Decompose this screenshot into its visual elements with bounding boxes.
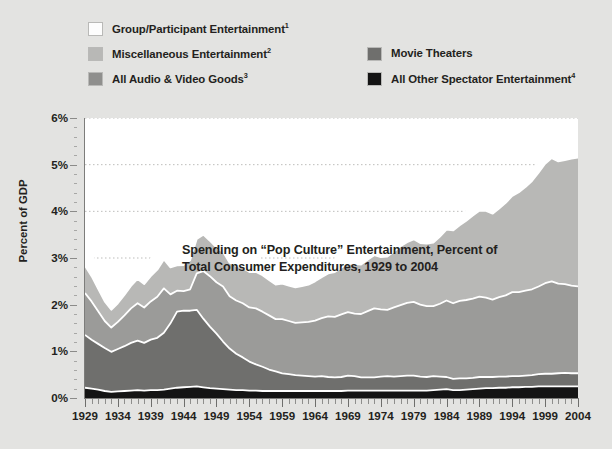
x-major-tick [315, 399, 316, 407]
x-minor-tick [262, 399, 263, 404]
x-tick-label-2004: 2004 [565, 409, 591, 422]
legend-swatch-icon [88, 72, 103, 86]
legend-item-0[interactable]: Movie Theaters [367, 41, 575, 66]
x-minor-tick [276, 399, 277, 404]
x-minor-tick [203, 399, 204, 404]
x-minor-tick [460, 399, 461, 404]
x-tick-label-1949: 1949 [204, 409, 230, 422]
x-minor-tick [499, 399, 500, 404]
y-tick-label-6%: 6% [51, 112, 68, 124]
x-minor-tick [210, 399, 211, 404]
x-minor-tick [394, 399, 395, 404]
x-minor-tick [519, 399, 520, 404]
x-major-tick [282, 399, 283, 407]
x-major-tick [545, 399, 546, 407]
y-minor-tick [74, 183, 77, 184]
chart-legend: Group/Participant Entertainment1Miscella… [88, 16, 598, 88]
plot-area: Spending on “Pop Culture” Entertainment,… [85, 118, 578, 398]
y-tick-mark [70, 351, 77, 352]
x-tick-label-1984: 1984 [434, 409, 460, 422]
x-minor-tick [170, 399, 171, 404]
legend-swatch-icon [88, 47, 103, 61]
y-tick-mark [70, 118, 77, 119]
y-minor-tick [74, 361, 77, 362]
legend-item-1[interactable]: All Other Spectator Entertainment4 [367, 66, 575, 91]
x-minor-tick [407, 399, 408, 404]
x-minor-tick [552, 399, 553, 404]
y-minor-tick [74, 389, 77, 390]
y-tick-mark [70, 258, 77, 259]
x-major-tick [512, 399, 513, 407]
x-tick-label-1989: 1989 [466, 409, 492, 422]
y-minor-tick [74, 202, 77, 203]
legend-column-left: Group/Participant Entertainment1Miscella… [88, 16, 289, 91]
y-minor-tick [74, 221, 77, 222]
x-minor-tick [111, 399, 112, 404]
y-tick-mark [70, 165, 77, 166]
y-minor-tick [74, 146, 77, 147]
x-minor-tick [387, 399, 388, 404]
x-minor-tick [558, 399, 559, 404]
x-minor-tick [427, 399, 428, 404]
y-tick-mark [70, 398, 77, 399]
x-minor-tick [230, 399, 231, 404]
legend-footnote-marker: 1 [285, 21, 289, 30]
x-major-tick [184, 399, 185, 407]
x-major-tick [151, 399, 152, 407]
x-minor-tick [177, 399, 178, 404]
x-major-tick [479, 399, 480, 407]
y-axis-title: Percent of GDP [17, 151, 29, 291]
x-minor-tick [440, 399, 441, 404]
y-axis: 0%1%2%3%4%5%6% [0, 108, 78, 408]
y-tick-label-4%: 4% [51, 205, 68, 217]
x-axis-ticks [85, 399, 580, 408]
y-minor-tick [74, 239, 77, 240]
x-minor-tick [374, 399, 375, 404]
y-minor-tick [74, 155, 77, 156]
y-minor-tick [74, 342, 77, 343]
legend-footnote-marker: 4 [571, 71, 575, 80]
x-tick-label-1939: 1939 [138, 409, 164, 422]
x-minor-tick [473, 399, 474, 404]
x-tick-label-1974: 1974 [368, 409, 394, 422]
y-tick-label-2%: 2% [51, 299, 68, 311]
y-minor-tick [74, 323, 77, 324]
x-minor-tick [164, 399, 165, 404]
x-minor-tick [525, 399, 526, 404]
x-major-tick [118, 399, 119, 407]
chart-root: Group/Participant Entertainment1Miscella… [0, 0, 612, 449]
x-minor-tick [236, 399, 237, 404]
x-tick-label-1954: 1954 [236, 409, 262, 422]
x-tick-label-1999: 1999 [532, 409, 558, 422]
y-tick-label-5%: 5% [51, 159, 68, 171]
x-minor-tick [355, 399, 356, 404]
x-major-tick [578, 399, 579, 407]
x-tick-label-1934: 1934 [105, 409, 131, 422]
x-minor-tick [335, 399, 336, 404]
x-major-tick [249, 399, 250, 407]
legend-item-2[interactable]: All Audio & Video Goods3 [88, 66, 289, 91]
x-minor-tick [157, 399, 158, 404]
legend-item-0[interactable]: Group/Participant Entertainment1 [88, 16, 289, 41]
x-minor-tick [302, 399, 303, 404]
x-tick-label-1959: 1959 [269, 409, 295, 422]
y-tick-mark [70, 211, 77, 212]
y-minor-tick [74, 333, 77, 334]
x-major-tick [85, 399, 86, 407]
x-minor-tick [269, 399, 270, 404]
x-minor-tick [328, 399, 329, 404]
x-tick-label-1964: 1964 [302, 409, 328, 422]
legend-swatch-icon [88, 22, 103, 36]
x-minor-tick [131, 399, 132, 404]
legend-item-1[interactable]: Miscellaneous Entertainment2 [88, 41, 289, 66]
x-tick-label-1979: 1979 [401, 409, 427, 422]
x-tick-label-1994: 1994 [499, 409, 525, 422]
y-tick-label-3%: 3% [51, 252, 68, 264]
legend-label: All Audio & Video Goods3 [112, 72, 248, 85]
x-minor-tick [92, 399, 93, 404]
x-minor-tick [368, 399, 369, 404]
x-minor-tick [433, 399, 434, 404]
x-minor-tick [98, 399, 99, 404]
x-minor-tick [361, 399, 362, 404]
x-minor-tick [322, 399, 323, 404]
